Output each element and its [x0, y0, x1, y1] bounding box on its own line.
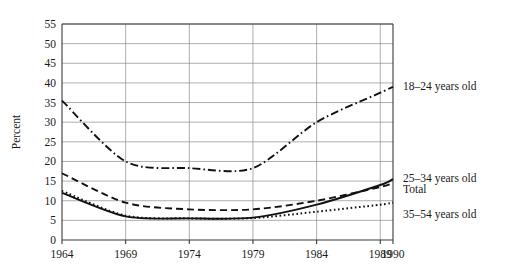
- y-axis-title: Percent: [10, 114, 22, 149]
- y-tick-label: 40: [45, 77, 57, 89]
- y-tick-label: 30: [45, 116, 57, 128]
- y-tick-label: 50: [45, 38, 57, 50]
- x-tick-label: 1969: [114, 248, 137, 260]
- chart-container: 0510152025303540455055 19641969197419791…: [0, 0, 510, 270]
- x-axis-tick-labels: 1964196919741979198419891990: [51, 248, 405, 260]
- horizontal-gridlines: [62, 24, 393, 220]
- y-tick-label: 20: [45, 155, 57, 167]
- x-tick-label: 1979: [241, 248, 264, 260]
- x-tick-label: 1990: [382, 248, 405, 260]
- x-tick-label: 1974: [178, 248, 201, 260]
- series-label-group: 18–24 years old25–34 years oldTotal35–54…: [403, 80, 477, 221]
- series-line-2: [62, 179, 393, 219]
- series-label-3: 35–54 years old: [403, 208, 477, 221]
- y-tick-label: 5: [50, 214, 56, 226]
- x-tick-label: 1984: [305, 248, 328, 260]
- data-series-group: [62, 87, 393, 219]
- axis-frame: [62, 24, 393, 240]
- series-label-0: 18–24 years old: [403, 80, 477, 93]
- y-tick-label: 10: [45, 195, 57, 207]
- y-tick-label: 45: [45, 57, 57, 69]
- y-tick-label: 35: [45, 97, 57, 109]
- series-label-2: Total: [403, 183, 426, 195]
- x-tick-label: 1964: [51, 248, 74, 260]
- vertical-gridlines: [62, 24, 393, 244]
- y-tick-label: 15: [45, 175, 57, 187]
- y-tick-label: 55: [45, 18, 57, 30]
- y-tick-label: 25: [45, 136, 57, 148]
- y-tick-label: 0: [50, 234, 56, 246]
- series-line-1: [62, 173, 393, 210]
- series-line-0: [62, 87, 393, 171]
- y-axis-tick-labels: 0510152025303540455055: [45, 18, 57, 246]
- line-chart: 0510152025303540455055 19641969197419791…: [0, 0, 510, 270]
